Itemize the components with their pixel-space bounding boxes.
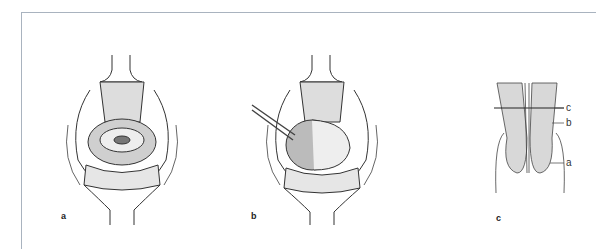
callout-a: a bbox=[566, 157, 572, 168]
panel-c-illustration bbox=[492, 78, 572, 198]
panel-b-illustration bbox=[250, 50, 385, 225]
panel-label-b: b bbox=[251, 211, 257, 221]
panel-label-a: a bbox=[61, 211, 66, 221]
callout-c: c bbox=[566, 102, 571, 113]
callout-b: b bbox=[566, 117, 572, 128]
panel-a-illustration bbox=[60, 50, 185, 225]
panel-label-c: c bbox=[496, 213, 501, 223]
